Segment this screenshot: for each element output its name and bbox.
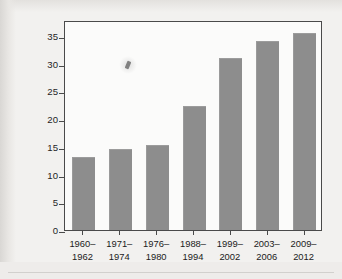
x-axis-tick-label-line1: 2003–	[254, 238, 280, 249]
scan-shading-top	[0, 0, 342, 12]
x-axis-tick-label-line1: 1971–	[106, 238, 132, 249]
x-axis-tick	[82, 231, 83, 235]
page-bottom-rule	[8, 272, 334, 273]
bar	[256, 41, 279, 230]
plot-frame	[64, 21, 322, 231]
bar	[219, 58, 242, 230]
x-axis-tick-label-line1: 1988–	[180, 238, 206, 249]
x-axis-tick-label-line1: 1976–	[143, 238, 169, 249]
y-axis-tick-label: 10	[36, 171, 58, 181]
bar	[183, 106, 206, 230]
y-axis-tick-label: 30	[36, 60, 58, 70]
x-axis-tick-label-line1: 1999–	[217, 238, 243, 249]
bar	[146, 145, 169, 230]
bar	[293, 33, 316, 230]
y-axis-tick-label: 20	[36, 115, 58, 125]
y-axis-tick	[59, 38, 65, 39]
y-axis-tick	[59, 149, 65, 150]
y-axis-tick-label: 15	[36, 143, 58, 153]
x-axis-tick-label: 2009–2012	[282, 238, 326, 263]
x-axis-tick	[119, 231, 120, 235]
bar-chart-figure: Percentage of population that is obese 0…	[0, 0, 342, 279]
bar	[72, 157, 95, 230]
y-axis-tick	[59, 204, 65, 205]
y-axis-tick-label: 5	[36, 198, 58, 208]
y-axis-tick	[59, 177, 65, 178]
x-axis-tick-label-line1: 2009–	[291, 238, 317, 249]
x-axis-tick	[230, 231, 231, 235]
y-axis-tick-label: 35	[36, 32, 58, 42]
plot-area	[65, 22, 321, 230]
y-axis-tick-label: 25	[36, 87, 58, 97]
page-bottom-band	[0, 262, 342, 279]
x-axis-tick	[267, 231, 268, 235]
x-axis-ticks	[64, 231, 322, 236]
y-axis-tick	[59, 93, 65, 94]
x-axis-tick	[304, 231, 305, 235]
y-axis-tick	[59, 121, 65, 122]
bar	[109, 149, 132, 230]
x-axis-tick-label-line1: 1960–	[69, 238, 95, 249]
x-axis-tick	[193, 231, 194, 235]
x-axis-tick	[156, 231, 157, 235]
y-axis-tick	[59, 66, 65, 67]
y-axis-tick-label: 0	[36, 226, 58, 236]
